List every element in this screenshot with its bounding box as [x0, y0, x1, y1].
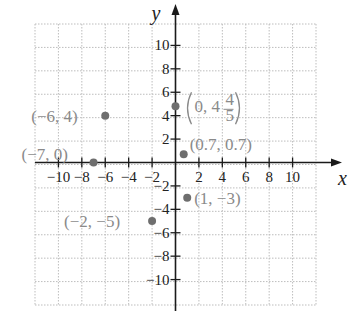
data-point — [148, 217, 156, 225]
y-tick-label: 10 — [155, 37, 170, 53]
fraction-denominator: 5 — [226, 106, 235, 125]
x-axis-arrow-icon — [331, 159, 342, 167]
x-tick-labels: −10−8−6−4−2246810 — [47, 169, 300, 185]
point-label: (−6, 4) — [31, 107, 77, 126]
x-tick-label: −4 — [121, 169, 137, 185]
x-tick-label: 8 — [265, 169, 273, 185]
x-tick-label: 4 — [219, 169, 227, 185]
y-axis-label: y — [150, 2, 161, 25]
point-labels: (−6, 4)(−7, 0)0, 445(0.7, 0.7)(1, −3)(−2… — [22, 90, 252, 231]
point-label: 0, 4 — [195, 97, 221, 116]
data-point — [90, 159, 98, 167]
point-label: (1, −3) — [194, 189, 240, 208]
y-tick-label: 4 — [162, 108, 170, 124]
point-label: (−7, 0) — [22, 145, 68, 164]
axes — [35, 4, 342, 311]
data-point — [180, 150, 188, 158]
paren-open-icon — [188, 92, 192, 124]
y-tick-label: −6 — [154, 225, 170, 241]
y-tick-label: −10 — [146, 272, 169, 288]
y-tick-label: −8 — [154, 248, 170, 264]
paren-close-icon — [236, 92, 240, 124]
x-tick-label: −10 — [47, 169, 70, 185]
x-tick-label: 6 — [242, 169, 250, 185]
x-axis-label: x — [337, 167, 347, 189]
y-tick-label: −4 — [154, 201, 170, 217]
x-tick-label: −8 — [74, 169, 90, 185]
y-tick-label: 2 — [162, 131, 170, 147]
coordinate-plane: −10−8−6−4−2246810 −10−8−6−4−2246810 x y … — [0, 0, 361, 320]
y-axis-arrow-icon — [172, 4, 180, 15]
point-label: (−2, −5) — [64, 212, 120, 231]
data-point — [183, 194, 191, 202]
x-tick-label: −6 — [97, 169, 113, 185]
y-tick-label: 6 — [162, 84, 170, 100]
y-tick-label: 8 — [162, 61, 170, 77]
data-point — [101, 112, 109, 120]
x-tick-label: 2 — [195, 169, 203, 185]
y-tick-label: −2 — [154, 178, 170, 194]
data-point — [172, 102, 180, 110]
point-label: (0.7, 0.7) — [190, 135, 252, 154]
x-tick-label: 10 — [285, 169, 300, 185]
